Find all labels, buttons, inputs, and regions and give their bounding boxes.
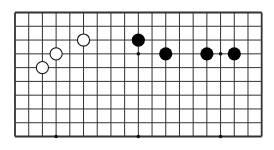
star-point-icon [137,135,141,139]
star-point-icon [219,52,223,56]
go-board[interactable] [0,0,274,150]
white-stone[interactable] [50,48,62,60]
white-stone[interactable] [36,62,48,74]
white-stone[interactable] [77,34,89,46]
black-stone[interactable] [200,47,213,60]
star-point-icon [219,135,223,139]
star-point-icon [54,135,58,139]
black-stone[interactable] [159,47,172,60]
star-point-icon [137,52,141,56]
board-background [0,0,274,150]
black-stone[interactable] [132,33,145,46]
black-stone[interactable] [228,47,241,60]
